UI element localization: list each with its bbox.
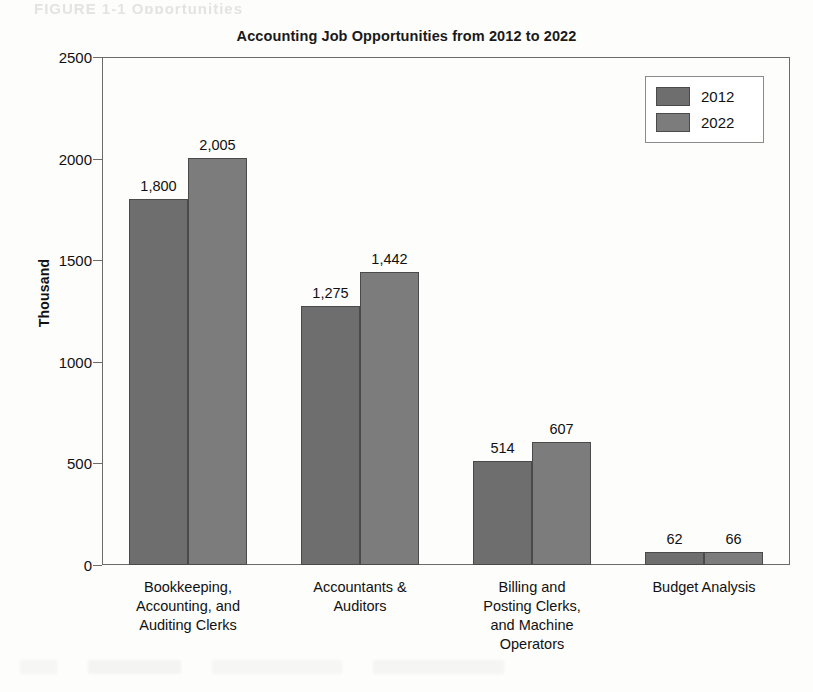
y-tick-mark: [93, 57, 102, 58]
y-tick-mark: [93, 159, 102, 160]
bar-2022-1: [360, 272, 419, 565]
bar-2012-3: [645, 552, 704, 565]
bar-value-label: 62: [666, 531, 682, 547]
bar-value-label: 607: [549, 421, 573, 437]
bar-value-label: 1,275: [312, 285, 348, 301]
bar-value-label: 2,005: [199, 137, 235, 153]
x-category-label: Accountants & Auditors: [313, 578, 407, 616]
legend-swatch: [656, 113, 690, 132]
legend-item-2012: 2012: [656, 85, 734, 107]
y-axis-tick-marks: [0, 57, 102, 565]
bar-value-label: 1,442: [371, 251, 407, 267]
legend-swatch: [656, 87, 690, 106]
bar-value-label: 514: [490, 440, 514, 456]
legend-item-2022: 2022: [656, 111, 734, 133]
x-category-label: Budget Analysis: [652, 578, 755, 597]
chart-title: Accounting Job Opportunities from 2012 t…: [0, 28, 813, 44]
y-tick-mark: [93, 260, 102, 261]
x-category-label: Bookkeeping, Accounting, and Auditing Cl…: [136, 578, 240, 635]
chart-legend: 20122022: [645, 76, 764, 143]
bar-2022-2: [532, 442, 591, 565]
bar-2012-0: [129, 199, 188, 565]
x-category-label: Billing and Posting Clerks, and Machine …: [483, 578, 581, 654]
bar-2012-1: [301, 306, 360, 565]
y-tick-mark: [93, 362, 102, 363]
legend-label: 2012: [701, 88, 734, 105]
scan-artifact: [20, 660, 640, 674]
bar-value-label: 1,800: [140, 178, 176, 194]
bar-2012-2: [473, 461, 532, 565]
bar-2022-0: [188, 158, 247, 565]
bar-2022-3: [704, 552, 763, 565]
legend-label: 2022: [701, 114, 734, 131]
y-tick-mark: [93, 565, 102, 566]
bar-value-label: 66: [725, 531, 741, 547]
cut-off-header-text: FIGURE 1-1 Opportunities: [34, 0, 243, 14]
y-tick-mark: [93, 463, 102, 464]
